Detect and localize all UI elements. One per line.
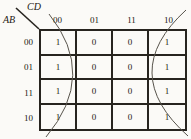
kmap-cell-r01-c11: 0 (113, 56, 149, 81)
kmap-cell-r11-c00: 1 (41, 80, 77, 105)
row-header-00: 00 (14, 29, 36, 55)
kmap-cell-r00-c00: 1 (41, 31, 77, 56)
kmap-cell-r11-c11: 0 (113, 80, 149, 105)
kmap-cell-r00-c11: 0 (113, 31, 149, 56)
row-header-01: 01 (14, 55, 36, 81)
kmap-cell-r10-c00: 1 (41, 105, 77, 130)
row-headers: 00 01 11 10 (14, 29, 36, 131)
kmap-cell-r00-c01: 0 (77, 31, 113, 56)
kmap-cell-r01-c10: 1 (149, 56, 185, 81)
kmap-cell-r10-c10: 1 (149, 105, 185, 130)
kmap-cell-r01-c00: 1 (41, 56, 77, 81)
kmap-cell-r01-c01: 0 (77, 56, 113, 81)
column-headers: 00 01 11 10 (39, 13, 187, 27)
col-header-00: 00 (39, 13, 76, 27)
kmap-cell-r10-c01: 0 (77, 105, 113, 130)
col-header-01: 01 (76, 13, 113, 27)
row-var-label: AB (3, 15, 15, 25)
kmap-cell-r11-c10: 1 (149, 80, 185, 105)
col-var-label: CD (27, 2, 41, 12)
kmap-cell-r00-c10: 1 (149, 31, 185, 56)
col-header-11: 11 (113, 13, 150, 27)
row-header-10: 10 (14, 106, 36, 132)
kmap-grid: 1 0 0 1 1 0 0 1 1 0 0 1 1 0 0 1 (39, 29, 187, 131)
col-header-10: 10 (150, 13, 187, 27)
karnaugh-map: CD AB 00 01 11 10 00 01 11 10 1 0 0 1 1 … (0, 0, 191, 139)
kmap-cell-r10-c11: 0 (113, 105, 149, 130)
kmap-cell-r11-c01: 0 (77, 80, 113, 105)
row-header-11: 11 (14, 80, 36, 106)
